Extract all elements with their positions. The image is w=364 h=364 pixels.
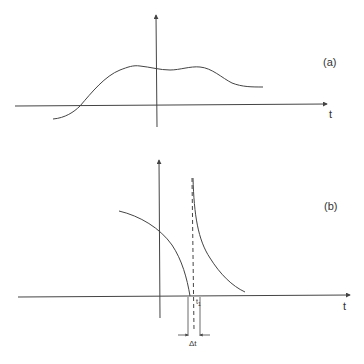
panel-a-y-axis xyxy=(156,15,157,127)
panel-a-x-axis xyxy=(15,104,327,106)
panel-b-axis-label: t xyxy=(343,300,346,312)
panel-a-axis-label: t xyxy=(329,108,332,120)
panel-b-left-curve xyxy=(119,211,190,296)
panel-b: Δt t1 (b) t xyxy=(18,160,350,348)
diagram-canvas: (a) t Δt t1 (b) t xyxy=(0,0,364,364)
delta-t-label: Δt xyxy=(189,339,197,348)
panel-a: (a) t xyxy=(15,15,336,127)
panel-b-x-axis xyxy=(18,295,350,297)
panel-b-label: (b) xyxy=(324,200,337,212)
panel-b-right-curve xyxy=(193,178,245,292)
panel-b-y-axis xyxy=(159,160,160,318)
panel-a-label: (a) xyxy=(323,56,336,68)
panel-a-curve xyxy=(53,66,263,119)
